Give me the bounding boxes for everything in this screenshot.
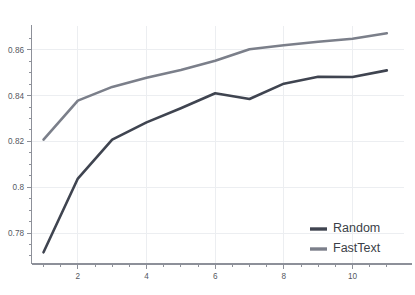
legend-label-fasttext: FastText [333, 241, 381, 255]
x-tick-label: 10 [348, 272, 358, 281]
x-tick-label: 4 [144, 272, 149, 281]
chart-legend: RandomFastText [310, 221, 381, 255]
line-chart: 0.780.80.820.840.86 246810 RandomFastTex… [0, 0, 415, 295]
y-tick-label: 0.78 [8, 229, 24, 238]
x-tick-label: 6 [213, 272, 218, 281]
chart-figure: 0.780.80.820.840.86 246810 RandomFastTex… [0, 0, 415, 295]
x-tick-label: 8 [282, 272, 287, 281]
y-tick-label: 0.86 [8, 46, 24, 55]
x-axis-tick-labels: 246810 [76, 272, 358, 281]
y-tick-label: 0.82 [8, 137, 24, 146]
legend-label-random: Random [333, 221, 380, 235]
y-tick-label: 0.8 [13, 183, 25, 192]
x-tick-label: 2 [76, 272, 81, 281]
y-axis-tick-labels: 0.780.80.820.840.86 [8, 46, 24, 238]
y-tick-label: 0.84 [8, 92, 24, 101]
